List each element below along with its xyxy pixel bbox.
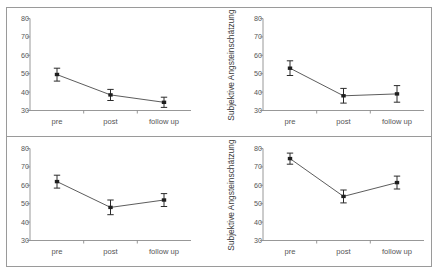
chart-panel-top-right: Subjektive Angsteinschätzung 30 40 50 60… — [219, 7, 432, 136]
x-category-label: post — [103, 117, 118, 126]
x-category-label: pre — [285, 117, 296, 126]
x-category-label: pre — [52, 117, 63, 126]
x-category-label: follow up — [149, 117, 179, 126]
chart-panel-top-left: 30 40 50 60 70 80 — [6, 7, 219, 136]
chart-panel-bottom-right: Subjektive Angsteinschätzung 30 40 50 60… — [219, 137, 432, 267]
chart-panel-bottom-left: 30 40 50 60 70 80 — [6, 137, 219, 267]
data-point-group — [394, 176, 400, 189]
data-point-group — [287, 153, 293, 164]
x-category-label: post — [336, 247, 351, 256]
plot-area-bottom-right: Subjektive Angsteinschätzung 30 40 50 60… — [219, 137, 432, 267]
axis-lines — [30, 149, 191, 241]
x-category-label: follow up — [382, 247, 412, 256]
plot-area-bottom-left: 30 40 50 60 70 80 — [6, 137, 219, 267]
x-category-label: post — [103, 247, 118, 256]
plot-area-top-left: 30 40 50 60 70 80 — [6, 7, 219, 136]
data-point-group — [340, 190, 346, 203]
x-category-label: pre — [52, 247, 63, 256]
y-axis-title: Subjektive Angsteinschätzung — [226, 9, 236, 121]
data-point-group — [54, 175, 60, 188]
y-axis-title: Subjektive Angsteinschätzung — [226, 139, 236, 251]
x-category-label: follow up — [382, 117, 412, 126]
x-category-label: follow up — [149, 247, 179, 256]
data-point-group — [287, 61, 293, 76]
x-category-label: pre — [285, 247, 296, 256]
data-point-group — [54, 68, 60, 81]
plot-area-top-right: Subjektive Angsteinschätzung 30 40 50 60… — [219, 7, 432, 136]
x-category-label: post — [336, 117, 351, 126]
